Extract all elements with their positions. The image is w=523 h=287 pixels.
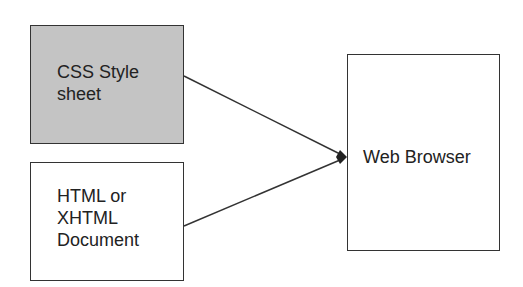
css-stylesheet-node: CSS Style sheet [30,25,184,144]
css-label-line-1: CSS Style [57,61,139,83]
browser-node-label: Web Browser [363,146,471,168]
web-browser-node: Web Browser [347,54,500,251]
html-label-line-3: Document [57,229,139,251]
arrow-css-to-browser [184,76,340,154]
css-node-label: CSS Style sheet [57,61,139,105]
html-label-line-2: XHTML [57,207,139,229]
html-document-node: HTML or XHTML Document [30,162,184,281]
html-node-label: HTML or XHTML Document [57,185,139,251]
css-label-line-2: sheet [57,83,139,105]
html-label-line-1: HTML or [57,185,139,207]
arrow-html-to-browser [184,160,340,226]
